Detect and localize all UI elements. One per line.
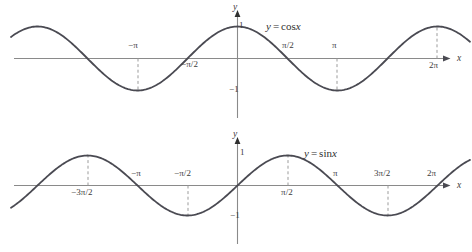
sin-eq-function: sin	[319, 147, 332, 159]
cosine-equation-label: y=cosx	[266, 21, 301, 32]
sine-equation-label: y=sinx	[304, 148, 337, 159]
sine-graph-panel: y x y=sinx −3π/2 −π −π/2 π/2 π 3π/2 2π 1…	[0, 126, 472, 252]
sin-tick-neg-3pi-over-2: −3π/2	[71, 188, 93, 197]
cos-eq-operator: =	[271, 20, 281, 32]
sin-x-axis-arrowhead	[443, 183, 451, 189]
cos-x-axis-label: x	[457, 54, 461, 64]
cos-eq-variable: x	[296, 20, 301, 32]
sin-tick-neg-pi: −π	[131, 169, 141, 178]
sin-y-axis-label: y	[233, 130, 237, 140]
cos-tick-2pi: 2π	[429, 61, 438, 70]
sin-tick-3pi-over-2: 3π/2	[374, 169, 390, 178]
cos-x-axis-arrowhead	[443, 56, 451, 62]
cos-tick-neg-pi-over-2: −π/2	[181, 60, 198, 69]
cos-y-axis-label: y	[233, 3, 237, 13]
sin-tick-pi-over-2: π/2	[281, 188, 293, 197]
sin-eq-variable: x	[332, 147, 337, 159]
cos-tick-y-neg-one: −1	[229, 85, 239, 94]
cos-tick-neg-pi: −π	[128, 41, 138, 50]
cos-eq-function: cos	[281, 20, 296, 32]
sin-tick-pi: π	[333, 169, 338, 178]
sin-tick-2pi: 2π	[427, 169, 436, 178]
cosine-graph-panel: y x y=cosx −π −π/2 π/2 π 2π 1 −1	[0, 0, 472, 126]
cos-tick-pi: π	[332, 41, 337, 50]
sin-tick-neg-pi-over-2: −π/2	[174, 169, 191, 178]
sin-tick-y-neg-one: −1	[230, 211, 240, 220]
sin-x-axis-label: x	[457, 181, 461, 191]
trig-graphs-figure: y x y=cosx −π −π/2 π/2 π 2π 1 −1	[0, 0, 472, 252]
sin-eq-operator: =	[309, 147, 319, 159]
cos-tick-pi-over-2: π/2	[282, 41, 294, 50]
cos-tick-y-one: 1	[239, 21, 244, 30]
cosine-plot-svg	[0, 0, 472, 126]
sin-tick-y-one: 1	[240, 148, 245, 157]
